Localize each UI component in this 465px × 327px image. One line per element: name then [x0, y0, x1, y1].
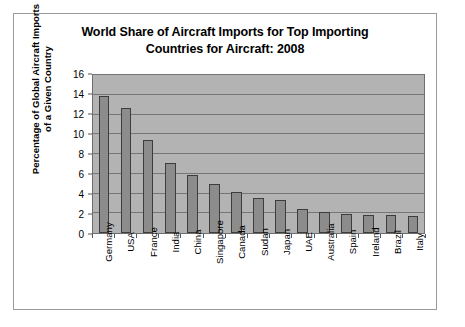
bar-series [93, 75, 424, 233]
y-axis-tick-label: 0 [78, 229, 84, 240]
y-axis-tick-label: 14 [73, 89, 84, 100]
bar-slot [203, 75, 225, 233]
plot-wrapper: 0246810121416 [70, 74, 425, 234]
x-label-slot: China [181, 240, 203, 310]
y-axis-tick-mark [88, 94, 92, 95]
x-axis-tick-mark [358, 234, 359, 238]
x-axis-tick-mark [247, 234, 248, 238]
bar-slot [159, 75, 181, 233]
bar-france[interactable] [143, 140, 154, 233]
x-label-slot: Brazil [381, 240, 403, 310]
bar-slot [380, 75, 402, 233]
bar-germany[interactable] [99, 96, 110, 233]
y-axis-tick-mark [88, 214, 92, 215]
x-label-slot: Italy [403, 240, 425, 310]
bar-slot [137, 75, 159, 233]
x-label-slot: India [159, 240, 181, 310]
x-label-slot: Canada [225, 240, 247, 310]
x-axis-label-germany: Germany [103, 222, 114, 261]
x-label-slot: Japan [270, 240, 292, 310]
y-axis-tick-mark [88, 174, 92, 175]
y-axis-tick-mark [88, 74, 92, 75]
y-axis-tick-label: 4 [78, 189, 84, 200]
y-axis-tick-label: 10 [73, 129, 84, 140]
x-label-slot: Spain [336, 240, 358, 310]
x-axis-label-australia: Australia [325, 223, 336, 260]
bar-slot [402, 75, 424, 233]
x-label-slot: France [136, 240, 158, 310]
x-axis-label-japan: Japan [281, 229, 292, 255]
x-label-slot: Sudan [247, 240, 269, 310]
chart-title-line-1: World Share of Aircraft Imports for Top … [14, 24, 436, 41]
chart-title-line-2: Countries for Aircraft: 2008 [14, 41, 436, 58]
y-axis-title: Percentage of Global Aircraft Imports of… [25, 0, 59, 179]
x-axis-label-spain: Spain [347, 230, 358, 255]
x-label-slot: Australia [314, 240, 336, 310]
y-axis-tick-mark [88, 154, 92, 155]
x-label-slot: Ireland [358, 240, 380, 310]
bar-slot [115, 75, 137, 233]
x-label-slot: UAE [292, 240, 314, 310]
y-axis-tick-label: 16 [73, 69, 84, 80]
y-axis-tick-mark [88, 134, 92, 135]
bar-slot [93, 75, 115, 233]
bar-usa[interactable] [121, 108, 132, 233]
x-axis-tick-mark [92, 234, 93, 238]
bar-slot [181, 75, 203, 233]
y-axis-title-line-1: Percentage of Global Aircraft Imports [30, 4, 42, 174]
y-axis-tick-labels: 0246810121416 [70, 74, 88, 234]
x-axis-label-france: France [148, 227, 159, 257]
x-axis-label-brazil: Brazil [392, 230, 403, 254]
bar-uae[interactable] [297, 209, 308, 233]
chart-title: World Share of Aircraft Imports for Top … [14, 24, 436, 58]
x-axis-label-sudan: Sudan [259, 228, 270, 256]
x-axis-label-china: China [192, 229, 203, 254]
x-axis-tick-mark [136, 234, 137, 238]
y-axis-tick-mark [88, 114, 92, 115]
bar-slot [292, 75, 314, 233]
y-axis-tick-label: 2 [78, 209, 84, 220]
y-axis-tick-label: 8 [78, 149, 84, 160]
bar-slot [247, 75, 269, 233]
y-axis-tick-mark [88, 194, 92, 195]
x-axis-label-ireland: Ireland [370, 227, 381, 256]
x-axis-label-usa: USA [125, 232, 136, 252]
bar-slot [314, 75, 336, 233]
x-axis-label-uae: UAE [303, 232, 314, 252]
bar-india[interactable] [165, 163, 176, 233]
chart-frame: World Share of Aircraft Imports for Top … [13, 13, 437, 310]
bar-china[interactable] [187, 175, 198, 233]
x-axis-label-singapore: Singapore [214, 220, 225, 264]
x-axis-label-canada: Canada [236, 225, 247, 259]
bar-slot [358, 75, 380, 233]
x-label-slot: USA [114, 240, 136, 310]
x-axis-tick-labels: GermanyUSAFranceIndiaChinaSingaporeCanad… [92, 240, 425, 310]
x-axis-label-india: India [170, 232, 181, 253]
bar-italy[interactable] [408, 216, 419, 233]
y-axis-tick-label: 6 [78, 169, 84, 180]
bar-slot [225, 75, 247, 233]
bar-slot [270, 75, 292, 233]
x-label-slot: Germany [92, 240, 114, 310]
x-axis-label-italy: Italy [414, 233, 425, 251]
plot-area [92, 74, 425, 234]
y-axis-title-line-2: of a Given Country [42, 46, 54, 132]
y-axis-tick-label: 12 [73, 109, 84, 120]
bar-slot [336, 75, 358, 233]
x-label-slot: Singapore [203, 240, 225, 310]
